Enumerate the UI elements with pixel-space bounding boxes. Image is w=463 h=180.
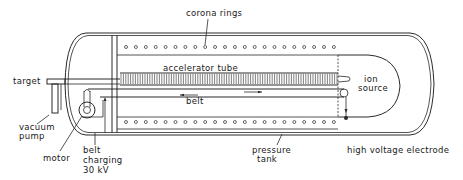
corona-ring — [283, 121, 286, 124]
label-accelerator-tube: accelerator tube — [163, 63, 238, 73]
label-pressure-tank-2: tank — [257, 154, 277, 164]
corona-ring — [154, 121, 157, 124]
label-belt-charging-3: 30 kV — [83, 165, 109, 175]
label-belt: belt — [186, 96, 204, 106]
corona-ring — [184, 46, 187, 49]
corona-ring — [332, 46, 335, 49]
corona-ring — [323, 121, 326, 124]
corona-ring — [323, 46, 326, 49]
target — [47, 79, 65, 84]
corona-ring — [233, 121, 236, 124]
corona-ring — [174, 46, 177, 49]
corona-ring — [273, 121, 276, 124]
corona-ring — [144, 121, 147, 124]
corona-ring — [224, 121, 227, 124]
corona-ring — [303, 46, 306, 49]
label-belt-charging-2: charging — [83, 155, 123, 165]
corona-ring — [125, 46, 128, 49]
corona-ring — [263, 121, 266, 124]
corona-ring — [174, 121, 177, 124]
label-vacuum-pump-2: pump — [19, 131, 45, 141]
corona-ring — [134, 121, 137, 124]
label-corona-rings: corona rings — [186, 8, 243, 18]
corona-ring — [263, 46, 266, 49]
vacuum-pump — [52, 84, 61, 113]
corona-ring — [303, 121, 306, 124]
corona-ring — [233, 46, 236, 49]
corona-ring — [243, 46, 246, 49]
corona-ring — [184, 121, 187, 124]
corona-ring — [224, 46, 227, 49]
corona-ring — [283, 46, 286, 49]
corona-ring — [313, 121, 316, 124]
corona-ring — [214, 121, 217, 124]
corona-ring — [253, 46, 256, 49]
label-motor: motor — [43, 153, 70, 163]
label-target: target — [13, 76, 41, 86]
accelerator-diagram: corona rings accelerator tube belt ion s… — [0, 0, 463, 180]
lower-corona-rings — [117, 117, 338, 129]
corona-ring — [164, 121, 167, 124]
label-belt-charging-1: belt — [83, 145, 101, 155]
label-ion-source-2: source — [358, 83, 388, 93]
corona-ring — [332, 121, 335, 124]
corona-ring — [273, 46, 276, 49]
corona-ring — [134, 46, 137, 49]
corona-ring — [313, 46, 316, 49]
corona-ring — [154, 46, 157, 49]
upper-corona-rings — [117, 46, 338, 56]
corona-ring — [164, 46, 167, 49]
corona-ring — [144, 46, 147, 49]
corona-ring — [204, 46, 207, 49]
corona-ring — [214, 46, 217, 49]
accelerator-tube — [120, 73, 350, 85]
belt — [88, 89, 348, 97]
corona-ring — [293, 46, 296, 49]
corona-ring — [125, 121, 128, 124]
corona-ring — [194, 121, 197, 124]
corona-ring — [204, 121, 207, 124]
motor — [79, 90, 95, 119]
corona-ring — [253, 121, 256, 124]
label-high-voltage-electrode: high voltage electrode — [347, 145, 449, 155]
corona-ring — [194, 46, 197, 49]
corona-ring — [243, 121, 246, 124]
corona-ring — [293, 121, 296, 124]
